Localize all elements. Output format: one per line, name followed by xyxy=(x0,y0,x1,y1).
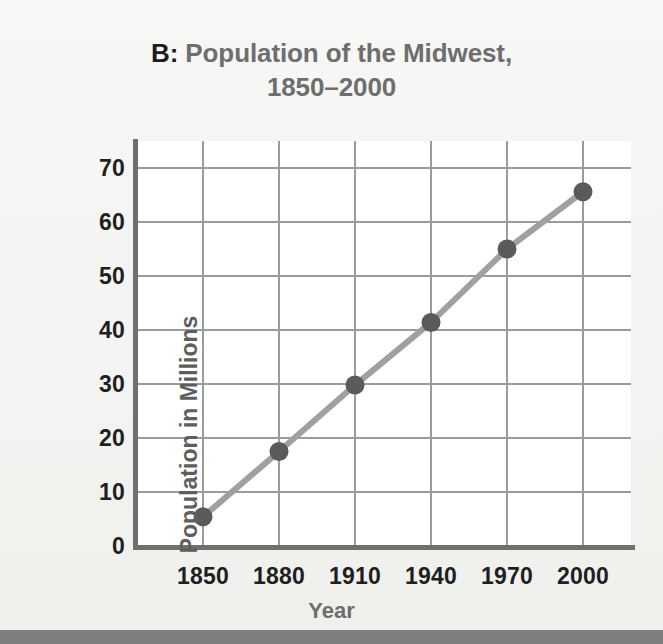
data-point-marker xyxy=(422,313,441,332)
y-axis-line xyxy=(133,139,138,548)
y-tick-label: 0 xyxy=(61,533,125,560)
chart-title-line-2: 1850–2000 xyxy=(0,70,663,104)
chart-page: B: Population of the Midwest, 1850–2000 … xyxy=(0,0,663,644)
page-bottom-band xyxy=(0,630,663,644)
chart-title-prefix: B: xyxy=(151,38,178,68)
chart-title-main: Population of the Midwest, xyxy=(185,38,512,68)
y-tick-label: 30 xyxy=(61,371,125,398)
data-point-marker xyxy=(270,442,289,461)
series-line xyxy=(203,192,583,517)
y-tick-label: 10 xyxy=(61,479,125,506)
data-point-marker xyxy=(346,376,365,395)
y-tick-label: 20 xyxy=(61,425,125,452)
y-tick-label: 40 xyxy=(61,317,125,344)
plot-area: Population in Millions xyxy=(137,141,631,546)
x-tick-label: 2000 xyxy=(538,563,628,590)
y-tick-label: 70 xyxy=(61,155,125,182)
x-axis-ticks: 185018801910194019702000 xyxy=(137,563,631,597)
chart-title-line-1: B: Population of the Midwest, xyxy=(0,36,663,70)
x-axis-label: Year xyxy=(0,598,663,624)
data-point-marker xyxy=(574,182,593,201)
y-axis-label: Population in Millions xyxy=(176,285,203,585)
y-tick-label: 60 xyxy=(61,209,125,236)
data-point-marker xyxy=(498,240,517,259)
chart-title: B: Population of the Midwest, 1850–2000 xyxy=(0,36,663,105)
y-axis-ticks: 010203040506070 xyxy=(55,141,125,546)
x-axis-line xyxy=(133,545,635,550)
y-tick-label: 50 xyxy=(61,263,125,290)
data-series-svg xyxy=(137,141,631,546)
